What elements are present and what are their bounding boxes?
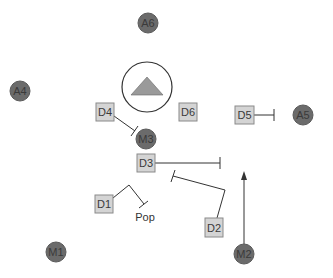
edge-d4-m3	[114, 116, 138, 136]
node-label: A4	[13, 85, 26, 97]
node-A6[interactable]: A6	[138, 13, 158, 33]
arrowhead-icon	[241, 171, 247, 180]
edge-d1-pop	[113, 185, 148, 208]
node-D3[interactable]: D3	[137, 154, 155, 172]
node-label: A6	[141, 17, 154, 29]
edge-d2-inhibit	[171, 170, 225, 218]
edge-d5-inhibit	[254, 109, 274, 121]
node-label: M1	[48, 246, 63, 258]
node-M3[interactable]: M3	[136, 129, 156, 149]
node-label: M2	[236, 248, 251, 260]
pop-label: Pop	[135, 211, 155, 223]
node-label: M3	[138, 133, 153, 145]
node-M1[interactable]: M1	[46, 242, 66, 262]
edge-d3-inhibit	[155, 157, 220, 169]
node-D6[interactable]: D6	[179, 103, 197, 121]
node-label: D4	[98, 106, 112, 118]
node-D2[interactable]: D2	[205, 218, 223, 237]
node-label: D3	[139, 157, 153, 169]
node-D1[interactable]: D1	[95, 195, 113, 213]
node-label: D6	[181, 106, 195, 118]
node-label: D5	[237, 109, 251, 121]
node-A5[interactable]: A5	[293, 105, 313, 125]
node-A4[interactable]: A4	[10, 81, 30, 101]
node-D4[interactable]: D4	[96, 103, 114, 121]
edge-m2-activation	[241, 171, 247, 244]
center-symbol	[122, 62, 172, 112]
node-M2[interactable]: M2	[234, 244, 254, 264]
node-D5[interactable]: D5	[235, 106, 254, 124]
node-label: D1	[97, 198, 111, 210]
inhibition-bar-icon	[139, 201, 148, 208]
node-label: D2	[207, 222, 221, 234]
node-label: A5	[296, 109, 309, 121]
diagram-canvas: A6 A4 A5 M3 M1 M2 D4 D6 D5 D3 D1	[0, 0, 333, 278]
